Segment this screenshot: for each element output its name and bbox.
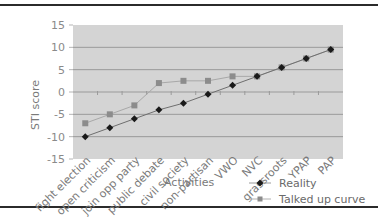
y-tick-label: -10: [47, 131, 65, 144]
y-tick-label: -15: [47, 153, 65, 166]
y-axis-ticks: 151050-5-10-15: [47, 19, 73, 166]
data-point: [230, 73, 236, 79]
legend-item-talked-up-curve: Talked up curve: [249, 193, 365, 206]
data-point: [156, 80, 162, 86]
y-tick-label: 15: [51, 19, 65, 32]
y-tick-label: 5: [58, 64, 65, 77]
data-point: [82, 120, 88, 126]
legend-label-reality: Reality: [279, 177, 317, 190]
data-point: [131, 102, 137, 108]
line-chart: 151050-5-10-15 fight electionopen critic…: [0, 0, 378, 218]
legend-label-talked-up-curve: Talked up curve: [278, 193, 365, 206]
x-axis-title: Activities: [164, 176, 214, 189]
y-tick-label: 10: [51, 41, 65, 54]
square-marker-icon: [258, 197, 263, 202]
data-point: [107, 111, 113, 117]
y-tick-label: 0: [58, 86, 65, 99]
y-tick-label: -5: [54, 108, 65, 121]
y-axis-title: STI score: [29, 80, 42, 130]
data-point: [205, 78, 211, 84]
data-point: [180, 78, 186, 84]
